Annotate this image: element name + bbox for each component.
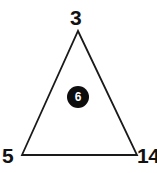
vertex-label-apex: 3: [70, 7, 81, 28]
center-node-circle: 6: [67, 86, 89, 108]
center-node-label: 6: [75, 91, 81, 103]
vertex-label-bottom-right: 14: [137, 145, 157, 166]
vertex-label-bottom-left: 5: [2, 145, 13, 166]
triangle-figure: 3 5 14 6: [0, 0, 157, 173]
